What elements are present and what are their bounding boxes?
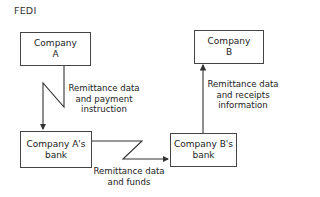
edge-a-to-bank-a [43, 66, 64, 129]
node-bank-a-line1: Company A's [27, 139, 86, 150]
node-company-b: Company B [194, 30, 264, 64]
edge-bank-a-to-bank-b [92, 141, 168, 159]
node-bank-b-line1: Company B's [174, 139, 233, 150]
edge-label-a-to-bank-a: Remittance data and payment instruction [67, 83, 141, 115]
node-bank-b-line2: bank [192, 150, 214, 161]
node-bank-b: Company B's bank [170, 133, 237, 167]
edge-label-bank-a-to-bank-b: Remittance data and funds [92, 166, 166, 187]
edge-label-b-line1: Remittance data [206, 79, 280, 90]
node-company-a: Company A [20, 32, 91, 66]
node-company-b-line1: Company [208, 36, 251, 47]
node-bank-a-line2: bank [45, 150, 67, 161]
edge-label-a-line3: instruction [67, 104, 141, 115]
node-bank-a: Company A's bank [20, 131, 92, 168]
edge-label-a-line2: and payment [67, 94, 141, 105]
node-company-a-line2: A [52, 49, 58, 60]
edge-label-funds-line2: and funds [92, 177, 166, 188]
edge-label-a-line1: Remittance data [67, 83, 141, 94]
edge-label-funds-line1: Remittance data [92, 166, 166, 177]
node-company-a-line1: Company [34, 38, 77, 49]
edge-label-b-line2: and receipts [206, 90, 280, 101]
edge-label-b-line3: information [206, 100, 280, 111]
node-company-b-line2: B [226, 47, 232, 58]
edge-label-bank-b-to-b: Remittance data and receipts information [206, 79, 280, 111]
